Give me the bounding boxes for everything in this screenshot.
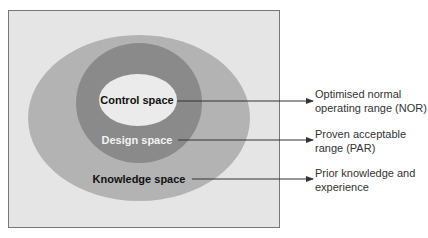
description-line: Proven acceptable: [315, 128, 406, 142]
control-space-description: Optimised normal operating range (NOR): [315, 88, 427, 115]
description-line: range (PAR): [315, 142, 406, 156]
design-space-label: Design space: [102, 134, 173, 146]
knowledge-space-description: Prior knowledge and experience: [315, 167, 415, 194]
control-space-label: Control space: [100, 94, 173, 106]
description-line: Optimised normal: [315, 88, 427, 102]
description-line: operating range (NOR): [315, 102, 427, 116]
description-line: Prior knowledge and: [315, 167, 415, 181]
design-space-description: Proven acceptable range (PAR): [315, 128, 406, 155]
description-line: experience: [315, 181, 415, 195]
knowledge-space-label: Knowledge space: [93, 173, 186, 185]
nested-spaces-diagram: [0, 0, 428, 238]
